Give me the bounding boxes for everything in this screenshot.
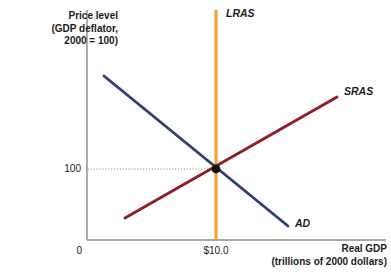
sras-curve-label: SRAS bbox=[344, 86, 373, 97]
x-axis-tick-equilibrium: $10.0 bbox=[192, 245, 240, 256]
x-axis-title-line2: (trillions of 2000 dollars) bbox=[271, 256, 387, 267]
axis-origin-tick-0: 0 bbox=[64, 245, 82, 256]
y-axis-title-line1: Price level bbox=[69, 10, 118, 21]
y-axis-tick-100: 100 bbox=[52, 163, 81, 174]
x-axis-title: Real GDP(trillions of 2000 dollars) bbox=[235, 243, 387, 268]
ad-curve bbox=[104, 76, 288, 226]
y-axis-title: Price level(GDP deflator,2000 = 100) bbox=[14, 10, 118, 48]
ad-as-chart-figure: Price level(GDP deflator,2000 = 100) LRA… bbox=[0, 0, 391, 272]
ad-curve-label: AD bbox=[295, 218, 310, 229]
y-axis-title-line3: 2000 = 100) bbox=[64, 35, 118, 46]
sras-curve bbox=[125, 97, 337, 218]
x-axis-title-line1: Real GDP bbox=[341, 243, 387, 254]
lras-curve-label: LRAS bbox=[226, 8, 255, 19]
y-axis-title-line2: (GDP deflator, bbox=[52, 23, 119, 34]
equilibrium-point-marker bbox=[212, 165, 221, 174]
